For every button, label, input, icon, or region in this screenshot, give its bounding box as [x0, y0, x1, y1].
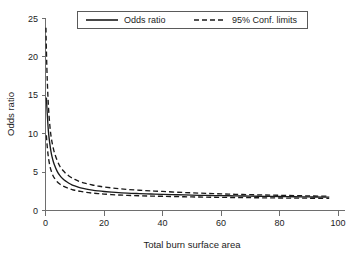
- x-tick-label: 100: [330, 218, 345, 228]
- legend-label-odds-ratio: Odds ratio: [124, 15, 166, 25]
- y-tick-label: 15: [28, 90, 38, 100]
- odds-ratio-line-chart: 0 5 10 15 20 25 0 20 40 60 80 100 Total …: [0, 0, 360, 265]
- x-tick-label: 60: [216, 218, 226, 228]
- y-axis-title: Odds ratio: [5, 92, 16, 136]
- x-tick-label: 20: [99, 218, 109, 228]
- figure-background: [0, 0, 360, 265]
- y-tick-label: 5: [33, 167, 38, 177]
- x-axis-title: Total burn surface area: [143, 239, 241, 250]
- x-tick-label: 0: [43, 218, 48, 228]
- y-tick-label: 25: [28, 14, 38, 24]
- y-tick-label: 10: [28, 129, 38, 139]
- legend-label-conf-limits: 95% Conf. limits: [232, 15, 298, 25]
- y-tick-label: 0: [33, 206, 38, 216]
- x-tick-label: 40: [157, 218, 167, 228]
- x-tick-label: 80: [274, 218, 284, 228]
- y-tick-label: 20: [28, 52, 38, 62]
- legend: Odds ratio 95% Conf. limits: [78, 12, 308, 29]
- chart-figure: 0 5 10 15 20 25 0 20 40 60 80 100 Total …: [0, 0, 360, 265]
